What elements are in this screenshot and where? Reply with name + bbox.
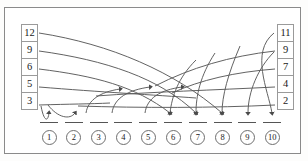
slot-circle-5[interactable]: 5 — [141, 130, 156, 145]
edge-curve-slot8 — [222, 46, 240, 113]
right-box-4[interactable]: 2 — [277, 92, 294, 110]
slot-tick-6 — [164, 122, 182, 123]
slot-circle-10[interactable]: 10 — [265, 130, 280, 145]
slot-circle-4[interactable]: 4 — [116, 130, 131, 145]
right-box-0[interactable]: 11 — [277, 24, 294, 42]
right-box-2[interactable]: 7 — [277, 58, 294, 76]
slot-tick-10 — [263, 122, 281, 123]
edge-curve-slot6 — [170, 60, 196, 113]
left-box-1[interactable]: 9 — [21, 41, 38, 59]
edge-right4-slot3 — [96, 87, 275, 96]
slot-tick-2 — [65, 122, 83, 123]
diagram-canvas: 12 9 6 5 3 11 9 7 4 2 12345678910 — [0, 0, 308, 161]
left-box-3[interactable]: 5 — [21, 75, 38, 93]
edge-left3-slot1 — [39, 103, 110, 105]
left-column: 12 9 6 5 3 — [21, 24, 38, 109]
slot-tick-5 — [139, 122, 157, 123]
slot-circle-3[interactable]: 3 — [91, 130, 106, 145]
slot-circle-9[interactable]: 9 — [240, 130, 255, 145]
left-box-2[interactable]: 6 — [21, 58, 38, 76]
left-box-0[interactable]: 12 — [21, 24, 38, 42]
right-column: 11 9 7 4 2 — [277, 24, 294, 109]
slot-circle-1[interactable]: 1 — [42, 130, 57, 145]
slot-circle-8[interactable]: 8 — [215, 130, 230, 145]
slot-tick-7 — [189, 122, 207, 123]
slot-circle-6[interactable]: 6 — [166, 130, 181, 145]
slot-tick-1 — [40, 122, 58, 123]
left-box-4[interactable]: 3 — [21, 92, 38, 110]
edge-hop-slot2 — [48, 105, 75, 117]
slot-tick-9 — [238, 122, 256, 123]
edge-left9-slot7 — [39, 51, 196, 113]
slot-tick-3 — [90, 122, 108, 123]
right-box-3[interactable]: 4 — [277, 75, 294, 93]
edge-right9-long — [155, 51, 275, 86]
slot-tick-4 — [114, 122, 132, 123]
edge-curve-slot4 — [112, 87, 150, 113]
right-box-1[interactable]: 9 — [277, 41, 294, 59]
edge-right11-slot10 — [262, 33, 274, 113]
slot-tick-8 — [214, 122, 232, 123]
edge-hop-slot1 — [41, 106, 49, 119]
edge-right2-slot2 — [78, 105, 275, 107]
